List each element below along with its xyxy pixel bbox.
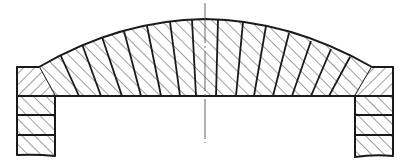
arch-drawing-svg — [0, 0, 409, 168]
arch-section-drawing — [0, 0, 409, 168]
